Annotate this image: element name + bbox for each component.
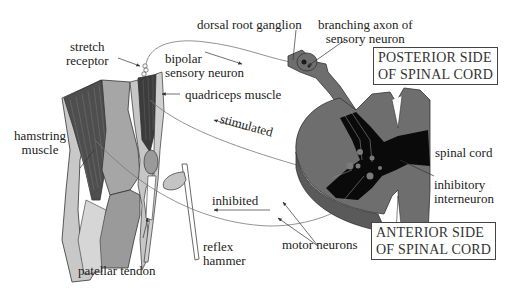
label-stretch-receptor: stretch receptor bbox=[66, 40, 109, 68]
stretch-receptor-coil bbox=[142, 64, 148, 76]
label-inhibited: inhibited bbox=[212, 194, 258, 208]
label-reflex-hammer: reflex hammer bbox=[203, 240, 246, 268]
posterior-side-box: POSTERIOR SIDE OF SPINAL CORD bbox=[373, 47, 498, 85]
label-bipolar-sensory-neuron: bipolar sensory neuron bbox=[165, 52, 244, 80]
label-dorsal-root-ganglion: dorsal root ganglion bbox=[197, 18, 302, 32]
patella bbox=[144, 150, 158, 174]
label-branching-axon: branching axon of sensory neuron bbox=[318, 18, 413, 46]
tibia bbox=[98, 190, 140, 268]
leg-illustration bbox=[62, 64, 164, 282]
label-spinal-cord: spinal cord bbox=[435, 146, 492, 160]
label-motor-neurons: motor neurons bbox=[282, 238, 357, 252]
label-inhibitory-interneuron: inhibitory interneuron bbox=[434, 178, 494, 206]
reflex-hammer bbox=[163, 164, 199, 260]
anterior-side-box: ANTERIOR SIDE OF SPINAL CORD bbox=[371, 222, 496, 260]
label-hamstring-muscle: hamstring muscle bbox=[14, 129, 66, 157]
label-quadriceps-muscle: quadriceps muscle bbox=[185, 88, 281, 102]
label-patellar-tendon: patellar tendon bbox=[78, 264, 156, 278]
